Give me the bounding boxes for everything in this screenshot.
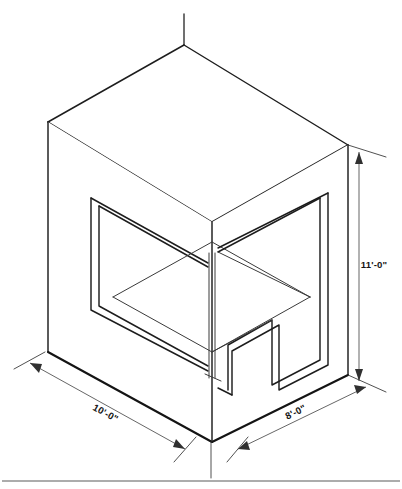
extension-line-right-lower xyxy=(348,375,386,392)
height-dimension-arrow-top xyxy=(355,152,363,164)
extension-line-top-right xyxy=(348,145,386,157)
width-dimension-arrow-end xyxy=(173,439,185,449)
height-dimension-label: 11'-0" xyxy=(361,259,388,270)
depth-dimension-arrow-end xyxy=(354,385,366,394)
isometric-drawing: 10'-0" 8'-0" 11'-0" xyxy=(0,0,402,489)
height-dimension-arrow-bottom xyxy=(355,369,363,381)
drawing-canvas: 10'-0" 8'-0" 11'-0" xyxy=(0,0,402,489)
width-dimension-arrow-start xyxy=(30,363,42,373)
